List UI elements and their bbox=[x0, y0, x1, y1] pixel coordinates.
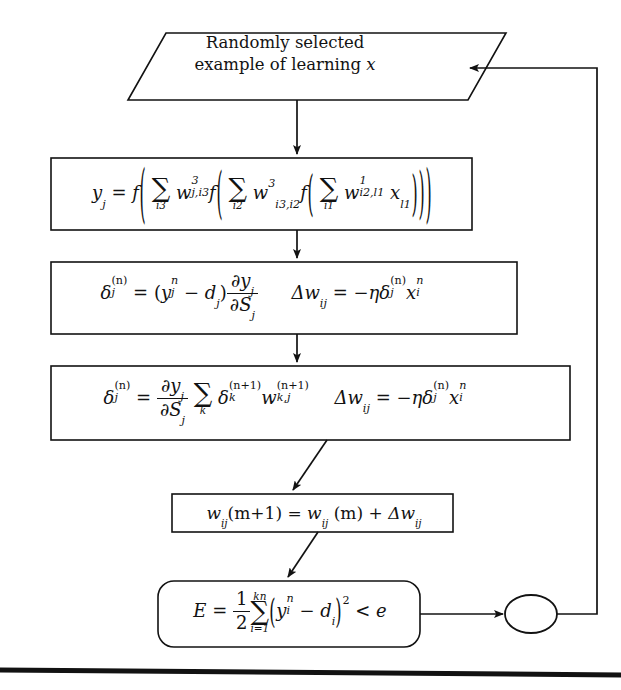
eq5-power: 2 bbox=[342, 594, 349, 607]
flowchart-graphics bbox=[0, 0, 621, 690]
eq1-input-x: xl1 bbox=[390, 182, 411, 203]
eq2-partial-fraction: ∂yj∂Sj bbox=[227, 271, 258, 315]
eq3-eta: η bbox=[412, 387, 423, 408]
eq3-delta-w: Δwij bbox=[334, 387, 369, 408]
eq1-fn-mid: f bbox=[209, 182, 216, 203]
eq3-negation: − bbox=[396, 387, 411, 408]
eq4-w-new: wij bbox=[206, 503, 227, 523]
input-node-label: Randomly selected example of learning x bbox=[150, 32, 420, 76]
eq4-delta-w: Δwij bbox=[388, 503, 421, 523]
eq2-delta-w: Δwij bbox=[291, 282, 326, 303]
eq4-plus: + bbox=[369, 503, 383, 523]
eq2-y: ynj bbox=[161, 282, 178, 303]
eq3-partial-fraction: ∂yj∂Sj bbox=[157, 376, 188, 420]
input-label-variable-x: x bbox=[366, 55, 375, 74]
forward-pass-equation: yj = f( ∑ i3 w3j,i3f( ∑ i2 w3i3,i2f( ∑ i… bbox=[52, 178, 472, 211]
eq2-negation: − bbox=[353, 282, 368, 303]
eq2-equals-2: = bbox=[333, 282, 348, 303]
eq3-weight: w(n+1)k,j bbox=[261, 387, 309, 408]
eq2-equals: = bbox=[133, 282, 148, 303]
eq5-less-than: < bbox=[355, 600, 370, 621]
edge-feedback-loop bbox=[470, 68, 597, 614]
eq1-paren-close-3: ) bbox=[411, 164, 417, 221]
eq5-minus: − bbox=[299, 600, 314, 621]
eq1-paren-close-1: ) bbox=[425, 156, 431, 230]
weight-update-equation: wij(m+1) = wij (m) + Δwij bbox=[174, 503, 454, 523]
loop-connector-shape bbox=[505, 595, 557, 633]
eq5-sum: kn∑i=1 bbox=[250, 591, 269, 634]
eq2-paren-close: ) bbox=[220, 282, 227, 303]
eq2-x: xni bbox=[406, 282, 423, 303]
eq4-arg-new: (m+1) bbox=[228, 503, 282, 523]
eq1-paren-close-2: ) bbox=[418, 160, 424, 226]
eq5-E: E bbox=[193, 600, 206, 621]
eq2-delta: δ(n)j bbox=[101, 282, 128, 303]
eq5-equals: = bbox=[212, 600, 227, 621]
eq5-half: 12 bbox=[233, 589, 250, 633]
eq1-paren-open-3: ( bbox=[307, 164, 313, 221]
eq1-sum-3: ∑ i1 bbox=[320, 178, 339, 211]
eq3-delta: δ(n)j bbox=[104, 387, 131, 408]
eq1-equals: = bbox=[111, 182, 126, 203]
eq4-equals: = bbox=[287, 503, 301, 523]
eq1-lhs: yj bbox=[92, 182, 106, 203]
hidden-delta-equation: δ(n)j = ∂yj∂Sj ∑ k δ(n+1)kw(n+1)k,j Δwij… bbox=[52, 377, 518, 421]
eq1-weight-3: w1i2,l1 bbox=[344, 182, 384, 203]
eq3-x: xni bbox=[449, 387, 466, 408]
eq3-delta-2: δ(n)j bbox=[422, 387, 449, 408]
eq5-y: yni bbox=[276, 600, 293, 621]
eq3-delta-k: δ(n+1)k bbox=[218, 387, 261, 408]
eq1-sum-2: ∑ i2 bbox=[229, 178, 248, 211]
eq1-fn-inner: f bbox=[300, 182, 307, 203]
edge-hidden-delta-to-weight-update bbox=[293, 440, 327, 490]
eq3-sum: ∑ k bbox=[194, 383, 213, 416]
page-bottom-rule bbox=[0, 670, 621, 675]
eq1-weight-2: w3i3,i2 bbox=[253, 182, 300, 203]
error-check-equation: E = 12kn∑i=1(yni − di)2 < e bbox=[160, 590, 420, 634]
eq3-equals: = bbox=[136, 387, 151, 408]
eq2-d: dj bbox=[205, 282, 220, 303]
eq1-weight-1: w3j,i3 bbox=[176, 182, 209, 203]
eq1-paren-open-2: ( bbox=[216, 160, 222, 226]
output-delta-equation: δ(n)j = (ynj − dj)∂yj∂Sj Δwij = −ηδ(n)jx… bbox=[52, 272, 472, 316]
eq4-arg-old: (m) bbox=[334, 503, 363, 523]
eq5-d: di bbox=[320, 600, 335, 621]
eq2-minus: − bbox=[184, 282, 199, 303]
input-label-line2-prefix: example of learning bbox=[194, 55, 366, 74]
eq5-threshold: e bbox=[376, 600, 387, 621]
eq3-equals-2: = bbox=[376, 387, 391, 408]
flowchart-page: Randomly selected example of learning x … bbox=[0, 0, 621, 690]
eq2-delta-2: δ(n)j bbox=[379, 282, 406, 303]
input-label-line2: example of learning x bbox=[150, 54, 420, 76]
eq5-paren-open: ( bbox=[270, 591, 276, 631]
eq2-eta: η bbox=[369, 282, 380, 303]
eq1-paren-open-1: ( bbox=[139, 156, 145, 230]
eq2-paren-open: ( bbox=[154, 282, 161, 303]
eq1-sum-1: ∑ i3 bbox=[152, 178, 171, 211]
eq1-fn-outer: f bbox=[132, 182, 139, 203]
input-label-line1: Randomly selected bbox=[150, 32, 420, 54]
eq4-w-old: wij bbox=[307, 503, 328, 523]
edge-weight-update-to-error-check bbox=[288, 532, 318, 577]
